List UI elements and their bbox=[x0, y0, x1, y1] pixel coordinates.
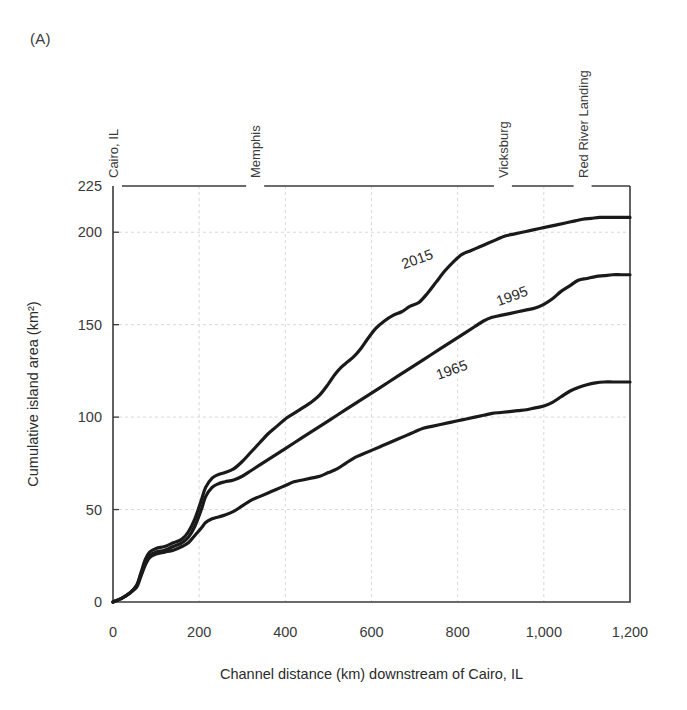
landmark-label-vicksburg: Vicksburg bbox=[496, 121, 511, 178]
landmark-labels: Cairo, ILMemphisVicksburgRed River Landi… bbox=[106, 70, 591, 178]
y-tick-label: 200 bbox=[78, 224, 102, 240]
x-tick-label: 800 bbox=[446, 624, 470, 640]
cumulative-island-area-chart: Cairo, ILMemphisVicksburgRed River Landi… bbox=[0, 0, 687, 710]
x-tick-label: 0 bbox=[109, 624, 117, 640]
x-axis-ticks: 02004006008001,0001,200 bbox=[109, 624, 648, 640]
series-label-2015: 2015 bbox=[399, 246, 435, 272]
x-tick-label: 1,200 bbox=[612, 624, 648, 640]
x-tick-label: 400 bbox=[273, 624, 297, 640]
x-tick-label: 1,000 bbox=[526, 624, 562, 640]
y-tick-label: 50 bbox=[86, 502, 102, 518]
y-tick-label: 225 bbox=[78, 178, 102, 194]
landmark-label-cairo-il: Cairo, IL bbox=[106, 129, 121, 178]
y-tick-label: 0 bbox=[94, 594, 102, 610]
x-axis-title: Channel distance (km) downstream of Cair… bbox=[220, 666, 523, 682]
x-tick-label: 200 bbox=[187, 624, 211, 640]
figure-panel-a: (A) Cairo, ILMemphisVicksburgRed River L… bbox=[0, 0, 687, 710]
series-label-1995: 1995 bbox=[494, 283, 530, 309]
x-tick-label: 600 bbox=[359, 624, 383, 640]
y-axis-title: Cumulative island area (km²) bbox=[25, 301, 41, 486]
y-tick-label: 150 bbox=[78, 317, 102, 333]
landmark-label-red-river-landing: Red River Landing bbox=[576, 70, 591, 178]
y-tick-label: 100 bbox=[78, 409, 102, 425]
series-label-1965: 1965 bbox=[434, 357, 470, 383]
landmark-label-memphis: Memphis bbox=[248, 125, 263, 178]
